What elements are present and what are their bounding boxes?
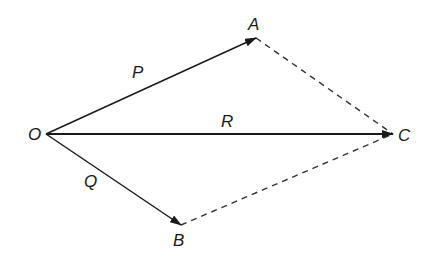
vector-label-r: R — [221, 112, 233, 131]
point-label-c: C — [398, 126, 411, 145]
dashed-edge-a-c — [256, 38, 393, 134]
vector-diagram: O A B C P R Q — [0, 0, 432, 268]
point-label-o: O — [28, 125, 41, 144]
vector-label-p: P — [132, 63, 144, 82]
point-label-b: B — [173, 231, 184, 250]
vector-label-q: Q — [84, 172, 97, 191]
vector-q-arrow — [46, 134, 181, 225]
point-label-a: A — [247, 15, 259, 34]
dashed-edge-b-c — [181, 134, 393, 225]
